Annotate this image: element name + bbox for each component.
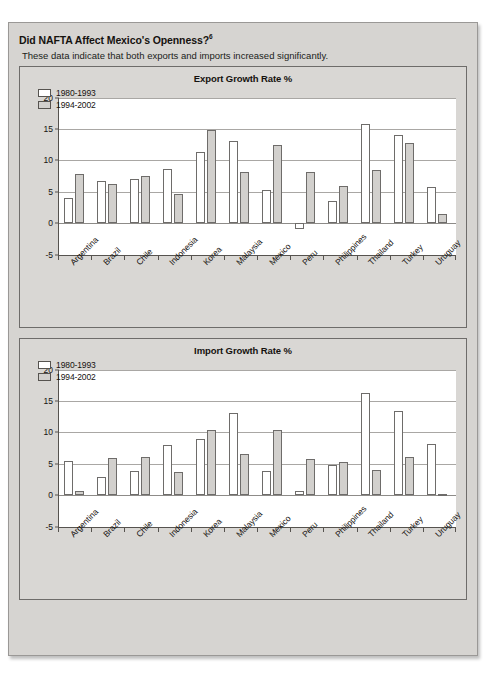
bar — [108, 458, 117, 495]
bar-group — [357, 98, 390, 255]
bar — [405, 457, 414, 495]
chart-title: Export Growth Rate % — [20, 67, 466, 84]
bar-group — [60, 370, 93, 527]
bar-group — [291, 98, 324, 255]
y-axis-tick-mark — [55, 128, 59, 129]
legend-swatch-1980-1993 — [38, 89, 51, 97]
legend-label: 1994-2002 — [56, 372, 96, 382]
bar — [295, 223, 304, 229]
y-axis-tick-mark — [55, 463, 59, 464]
bar — [130, 471, 139, 495]
y-axis-tick-mark — [55, 223, 59, 224]
legend-item: 1994-2002 — [38, 100, 96, 110]
bar-group — [225, 98, 258, 255]
bar — [394, 135, 403, 224]
bar — [273, 145, 282, 224]
bar — [372, 170, 381, 223]
legend-label: 1980-1993 — [56, 88, 96, 98]
plot-area: -505101520 — [58, 370, 456, 527]
bar — [372, 470, 381, 495]
bar — [361, 124, 370, 223]
legend-label: 1994-2002 — [56, 100, 96, 110]
chart-title: Import Growth Rate % — [20, 339, 466, 356]
bar-group — [93, 98, 126, 255]
bar-group — [357, 370, 390, 527]
bar — [229, 141, 238, 223]
y-axis-tick-mark — [55, 191, 59, 192]
bar — [130, 179, 139, 223]
bar-group — [324, 98, 357, 255]
bar — [306, 172, 315, 223]
legend-swatch-1994-2002 — [38, 373, 51, 381]
plot-area: -505101520 — [58, 98, 456, 255]
bar — [141, 176, 150, 223]
x-axis-labels: ArgentinaBrazilChileIndonesiaKoreaMalays… — [58, 260, 456, 316]
bar-group — [225, 370, 258, 527]
bar — [108, 184, 117, 224]
bar — [394, 411, 403, 495]
bar-group — [324, 370, 357, 527]
plot-wrapper: 1980-1993 1994-2002 -505101520 Argentina… — [20, 356, 466, 588]
y-axis-tick-mark — [55, 160, 59, 161]
bar-groups — [60, 98, 456, 255]
bar-group — [291, 370, 324, 527]
chart-legend: 1980-1993 1994-2002 — [38, 88, 96, 112]
bar — [64, 198, 73, 223]
bar — [207, 130, 216, 224]
bar — [174, 194, 183, 224]
bar — [405, 143, 414, 223]
bar — [207, 430, 216, 495]
bar — [163, 445, 172, 495]
bar-group — [126, 370, 159, 527]
bar — [306, 459, 315, 495]
bar — [438, 214, 447, 223]
import-growth-chart-panel: Import Growth Rate % 1980-1993 1994-2002… — [19, 338, 467, 600]
bar-groups — [60, 370, 456, 527]
bar — [427, 444, 436, 495]
bar — [240, 172, 249, 223]
bar — [339, 186, 348, 223]
bar — [229, 413, 238, 495]
x-axis-labels: ArgentinaBrazilChileIndonesiaKoreaMalays… — [58, 532, 456, 588]
y-axis-tick-mark — [55, 400, 59, 401]
bar — [273, 430, 282, 495]
legend-item: 1994-2002 — [38, 372, 96, 382]
bar — [328, 201, 337, 223]
bar-group — [423, 98, 456, 255]
bar-group — [423, 370, 456, 527]
bar — [240, 454, 249, 495]
bar — [328, 465, 337, 495]
bar — [361, 393, 370, 495]
bar — [174, 472, 183, 495]
bar-group — [390, 98, 423, 255]
chart-legend: 1980-1993 1994-2002 — [38, 360, 96, 384]
legend-item: 1980-1993 — [38, 88, 96, 98]
bar — [163, 169, 172, 223]
bar-group — [60, 98, 93, 255]
bar — [339, 462, 348, 495]
bar-group — [192, 98, 225, 255]
bar — [196, 152, 205, 223]
bar-group — [192, 370, 225, 527]
bar — [97, 477, 106, 495]
page-title: Did NAFTA Affect Mexico's Openness?6 — [19, 30, 467, 47]
export-growth-chart-panel: Export Growth Rate % 1980-1993 1994-2002… — [19, 66, 467, 328]
legend-swatch-1994-2002 — [38, 101, 51, 109]
bar — [75, 491, 84, 495]
bar-group — [159, 370, 192, 527]
y-axis-tick-mark — [55, 432, 59, 433]
bar-group — [126, 98, 159, 255]
bar-group — [258, 370, 291, 527]
y-axis-tick-mark — [55, 495, 59, 496]
bar — [262, 190, 271, 223]
bar-group — [390, 370, 423, 527]
bar — [438, 494, 447, 496]
bar — [295, 491, 304, 495]
exhibit-title-text: Did NAFTA Affect Mexico's Openness? — [19, 34, 209, 46]
bar — [427, 187, 436, 223]
bar — [97, 181, 106, 223]
exhibit-container: Did NAFTA Affect Mexico's Openness?6 The… — [8, 22, 478, 656]
exhibit-subtitle: These data indicate that both exports an… — [19, 50, 467, 62]
legend-label: 1980-1993 — [56, 360, 96, 370]
bar — [262, 471, 271, 495]
